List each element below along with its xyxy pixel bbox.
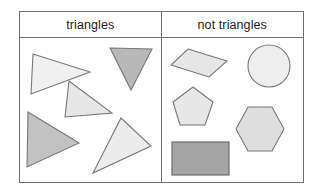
- shape-circle: [247, 44, 293, 90]
- cell-not-triangles: [162, 38, 304, 182]
- cell-triangles: [20, 38, 162, 182]
- shape-rectangle: [171, 141, 231, 177]
- shape-hexagon: [234, 106, 287, 154]
- shape-triangle-large-light-bottom-right: [92, 116, 156, 178]
- shape-pentagon: [172, 86, 216, 128]
- shape-triangle-right-medium-bottom-left: [26, 110, 84, 172]
- table-header-row: triangles not triangles: [20, 12, 303, 38]
- column-header-triangles: triangles: [20, 12, 162, 37]
- table-body-row: [20, 38, 303, 182]
- column-header-not-triangles: not triangles: [162, 12, 304, 37]
- sorting-table: triangles not triangles: [19, 11, 304, 183]
- worksheet-page: triangles not triangles: [0, 0, 325, 195]
- shape-rhombus: [170, 48, 230, 80]
- shape-triangle-down-dark-top-right: [110, 48, 156, 94]
